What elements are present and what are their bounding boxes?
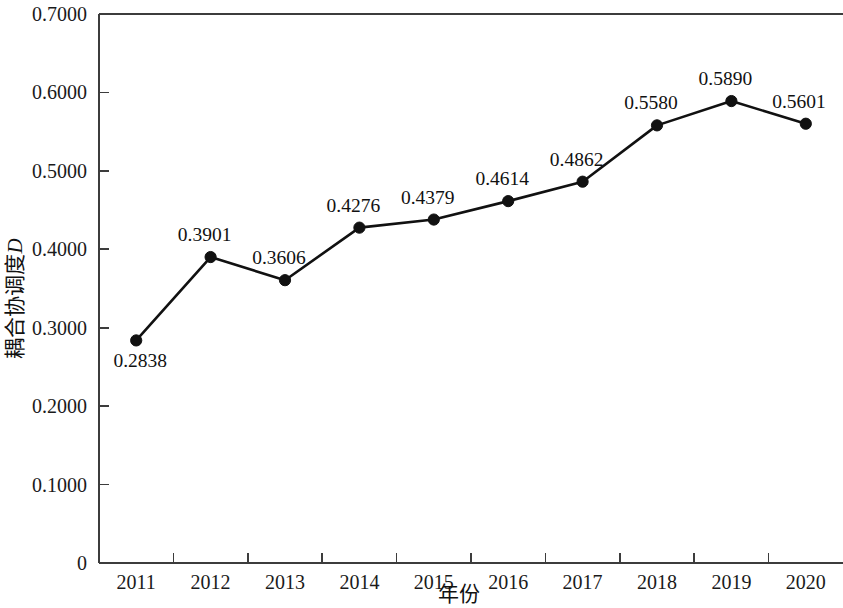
data-point-label: 0.4862 [550,149,604,170]
data-point-label: 0.4276 [327,195,381,216]
data-point-marker[interactable] [279,275,290,286]
y-axis-title: 耦合协调度D [3,238,27,358]
data-point-marker[interactable] [726,95,737,106]
data-point-label: 0.4614 [475,168,529,189]
data-point-label: 0.5890 [699,68,753,89]
x-tick-label: 2013 [265,571,305,593]
data-point-label: 0.3901 [178,224,232,245]
x-tick-label: 2018 [637,571,677,593]
y-tick-label: 0.4000 [32,238,87,260]
y-tick-label: 0.2000 [32,395,87,417]
x-tick-label: 2019 [711,571,751,593]
data-point-marker[interactable] [354,222,365,233]
data-point-label: 0.5580 [624,92,678,113]
chart-background [0,0,843,608]
data-point-marker[interactable] [577,176,588,187]
line-chart: 00.10000.20000.30000.40000.50000.60000.7… [0,0,843,608]
data-point-label: 0.2838 [113,350,167,371]
y-tick-label: 0.6000 [32,81,87,103]
y-tick-label: 0.3000 [32,317,87,339]
data-point-marker[interactable] [651,120,662,131]
x-tick-label: 2014 [339,571,379,593]
data-point-marker[interactable] [428,214,439,225]
data-point-label: 0.4379 [401,187,455,208]
y-tick-label: 0 [77,552,87,574]
x-tick-label: 2017 [563,571,603,593]
data-point-marker[interactable] [205,251,216,262]
y-tick-label: 0.1000 [32,474,87,496]
y-axis-title-symbol: D [3,238,27,254]
data-point-marker[interactable] [131,335,142,346]
data-point-label: 0.3606 [252,247,306,268]
y-axis-title-text: 耦合协调度 [3,254,27,359]
y-tick-label: 0.5000 [32,160,87,182]
y-tick-label: 0.7000 [32,3,87,25]
x-tick-label: 2012 [191,571,231,593]
x-tick-label: 2011 [117,571,156,593]
data-point-marker[interactable] [800,118,811,129]
chart-container: 00.10000.20000.30000.40000.50000.60000.7… [0,0,843,608]
data-point-marker[interactable] [503,196,514,207]
x-axis-title: 年份 [438,582,480,606]
x-tick-label: 2020 [786,571,826,593]
x-tick-label: 2016 [488,571,528,593]
data-point-label: 0.5601 [772,91,826,112]
